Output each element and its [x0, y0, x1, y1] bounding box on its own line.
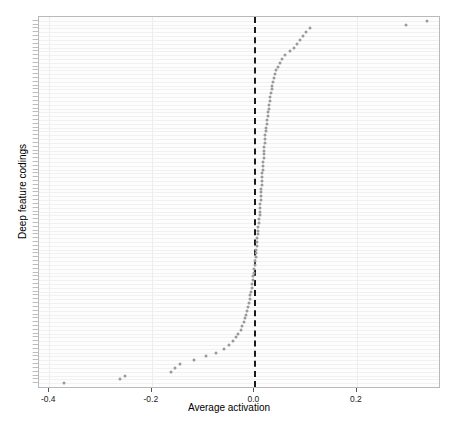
gridline-horizontal	[39, 189, 439, 190]
y-axis-tick-mark	[34, 73, 38, 74]
y-axis-tick-mark	[34, 340, 38, 341]
y-axis-tick-mark	[34, 161, 38, 162]
gridline-horizontal	[39, 299, 439, 300]
data-point	[256, 233, 259, 236]
data-point	[255, 244, 258, 247]
y-axis-tick-mark	[34, 50, 38, 51]
gridline-horizontal	[39, 67, 439, 68]
gridline-horizontal	[39, 341, 439, 342]
data-point	[265, 122, 268, 125]
gridline-horizontal	[39, 177, 439, 178]
y-axis-tick-mark	[34, 27, 38, 28]
y-axis-tick-mark	[34, 39, 38, 40]
gridline-horizontal	[39, 360, 439, 361]
y-axis-tick-mark	[34, 146, 38, 147]
gridline-horizontal	[39, 170, 439, 171]
gridline-horizontal	[39, 28, 439, 29]
y-axis-tick-mark	[34, 207, 38, 208]
data-point	[265, 126, 268, 129]
data-point	[259, 199, 262, 202]
data-point	[305, 31, 308, 34]
y-axis-tick-mark	[34, 43, 38, 44]
gridline-horizontal	[39, 200, 439, 201]
y-axis-tick-mark	[34, 333, 38, 334]
data-point	[258, 218, 261, 221]
y-axis-tick-mark	[34, 35, 38, 36]
gridline-horizontal	[39, 253, 439, 254]
data-point	[308, 27, 311, 30]
gridline-horizontal	[39, 109, 439, 110]
gridline-horizontal	[39, 40, 439, 41]
y-axis-tick-mark	[34, 371, 38, 372]
y-axis-tick-mark	[34, 31, 38, 32]
gridline-horizontal	[39, 269, 439, 270]
gridline-vertical	[49, 17, 50, 387]
gridline-horizontal	[39, 276, 439, 277]
data-point	[250, 286, 253, 289]
y-axis-tick-mark	[34, 130, 38, 131]
data-point	[269, 96, 272, 99]
data-point	[247, 302, 250, 305]
gridline-horizontal	[39, 238, 439, 239]
y-axis-tick-mark	[34, 119, 38, 120]
gridline-horizontal	[39, 322, 439, 323]
gridline-horizontal	[39, 196, 439, 197]
gridline-horizontal	[39, 303, 439, 304]
gridline-horizontal	[39, 231, 439, 232]
gridline-horizontal	[39, 135, 439, 136]
y-axis-tick-mark	[34, 188, 38, 189]
gridline-horizontal	[39, 280, 439, 281]
y-axis-tick-mark	[34, 359, 38, 360]
data-point	[252, 271, 255, 274]
data-point	[123, 374, 126, 377]
y-axis-tick-mark	[34, 108, 38, 109]
data-point	[252, 275, 255, 278]
data-point	[62, 382, 65, 385]
data-point	[214, 351, 217, 354]
gridline-horizontal	[39, 143, 439, 144]
y-axis-tick-mark	[34, 195, 38, 196]
gridline-horizontal	[39, 48, 439, 49]
data-point	[258, 221, 261, 224]
data-point	[275, 69, 278, 72]
gridline-horizontal	[39, 55, 439, 56]
data-point	[254, 256, 257, 259]
gridline-horizontal	[39, 326, 439, 327]
data-point	[261, 168, 264, 171]
gridline-horizontal	[39, 21, 439, 22]
y-axis-tick-mark	[34, 367, 38, 368]
data-point	[248, 298, 251, 301]
y-axis-tick-mark	[34, 142, 38, 143]
data-point	[258, 214, 261, 217]
gridline-horizontal	[39, 78, 439, 79]
y-axis-tick-mark	[34, 302, 38, 303]
y-axis-tick-mark	[34, 237, 38, 238]
x-axis-tick-mark	[151, 388, 152, 392]
data-point	[169, 370, 172, 373]
gridline-horizontal	[39, 219, 439, 220]
gridline-horizontal	[39, 273, 439, 274]
y-axis-tick-mark	[34, 134, 38, 135]
data-point	[239, 328, 242, 331]
gridline-horizontal	[39, 349, 439, 350]
data-point	[237, 332, 240, 335]
y-axis-tick-mark	[34, 24, 38, 25]
y-axis-tick-mark	[34, 88, 38, 89]
y-axis-tick-mark	[34, 279, 38, 280]
gridline-horizontal	[39, 315, 439, 316]
data-point	[269, 92, 272, 95]
y-axis-tick-mark	[34, 344, 38, 345]
y-axis-tick-mark	[34, 172, 38, 173]
gridline-horizontal	[39, 288, 439, 289]
y-axis-tick-mark	[34, 66, 38, 67]
gridline-horizontal	[39, 59, 439, 60]
gridline-horizontal	[39, 204, 439, 205]
data-point	[173, 366, 176, 369]
gridline-horizontal	[39, 379, 439, 380]
data-point	[118, 378, 121, 381]
y-axis-tick-mark	[34, 85, 38, 86]
y-axis-tick-mark	[34, 264, 38, 265]
data-point	[264, 134, 267, 137]
data-point	[259, 206, 262, 209]
data-point	[262, 160, 265, 163]
